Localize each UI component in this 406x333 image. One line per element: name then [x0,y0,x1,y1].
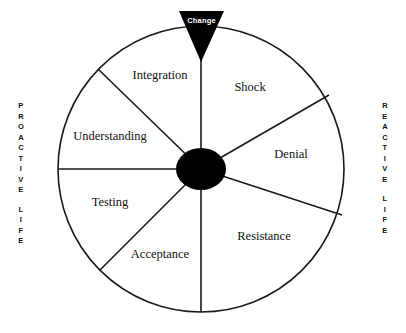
change-cycle-diagram: Change Shock Denial Resistance Acceptanc… [0,0,406,333]
axis-letter: A [10,133,32,144]
axis-word-gap [374,185,396,194]
axis-letter: T [374,143,396,154]
axis-letter: E [10,185,32,196]
reactive-life-axis-label: REACTIVE LIFE [374,101,396,236]
axis-letter: C [374,133,396,144]
axis-letter: E [374,112,396,123]
segment-label-denial: Denial [274,147,308,161]
axis-letter: E [374,226,396,237]
segment-label-shock: Shock [234,80,266,94]
axis-letter: I [374,205,396,216]
segment-label-understanding: Understanding [73,129,147,143]
axis-letter: F [374,215,396,226]
axis-letter: I [10,215,32,226]
axis-letter: V [374,164,396,175]
wheel-graphic: Change Shock Denial Resistance Acceptanc… [0,0,406,333]
axis-letter: L [10,205,32,216]
axis-letter: T [10,154,32,165]
axis-letter: E [374,175,396,186]
segment-label-acceptance: Acceptance [131,247,190,261]
axis-letter: R [10,112,32,123]
segment-label-integration: Integration [133,68,189,82]
axis-letter: V [10,175,32,186]
axis-letter: E [10,236,32,247]
proactive-life-axis-label: PROACTIVE LIFE [10,101,32,247]
proactive-life-word: LIFE [10,205,32,247]
axis-letter: C [10,143,32,154]
axis-letter: I [374,154,396,165]
axis-letter: O [10,122,32,133]
axis-letter: F [10,226,32,237]
proactive-word: PROACTIVE [10,101,32,196]
axis-letter: P [10,101,32,112]
reactive-life-word: LIFE [374,194,396,236]
segment-label-testing: Testing [92,195,129,209]
axis-word-gap [10,196,32,205]
segment-label-resistance: Resistance [237,229,291,243]
axis-letter: I [10,164,32,175]
axis-letter: L [374,194,396,205]
axis-letter: R [374,101,396,112]
hub-ellipse [176,148,226,190]
change-label: Change [187,16,216,25]
axis-letter: A [374,122,396,133]
reactive-word: REACTIVE [374,101,396,185]
